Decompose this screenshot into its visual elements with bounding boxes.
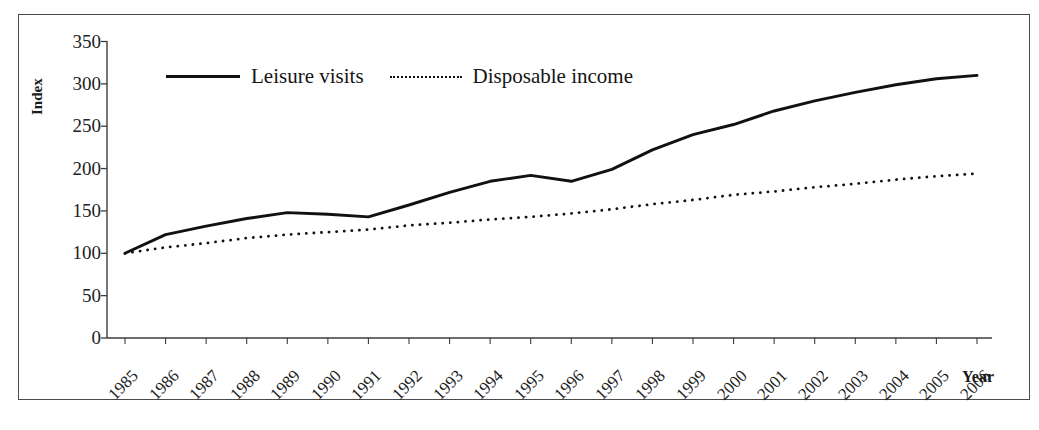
x-tick-label: 1988 [227, 367, 263, 403]
x-tick-label: 1985 [105, 367, 141, 403]
x-tick-label: 2001 [754, 367, 790, 403]
legend-label: Disposable income [473, 66, 633, 87]
x-tick-label: 1989 [267, 367, 303, 403]
x-tick-label: 2005 [916, 367, 952, 403]
x-tick-label: 1987 [186, 367, 222, 403]
legend-label: Leisure visits [251, 66, 364, 87]
x-tick-label: 1986 [146, 367, 182, 403]
legend-item-disposable-income: Disposable income [390, 66, 633, 87]
legend-line-dotted-icon [390, 76, 462, 78]
x-tick-label: 1999 [673, 367, 709, 403]
x-tick-label: 1995 [511, 367, 547, 403]
x-tick-label: 1990 [308, 367, 344, 403]
chart-legend: Leisure visits Disposable income [166, 66, 633, 87]
x-tick-label: 1993 [430, 367, 466, 403]
legend-item-leisure-visits: Leisure visits [166, 66, 364, 87]
x-tick-label: 2000 [714, 367, 750, 403]
x-tick-label: 1998 [632, 367, 668, 403]
x-axis-title: Year [962, 368, 994, 386]
x-tick-label: 2003 [835, 367, 871, 403]
x-tick-label: 1994 [470, 367, 506, 403]
x-tick-label: 1997 [592, 367, 628, 403]
x-tick-label: 1992 [389, 367, 425, 403]
x-tick-label: 2004 [876, 367, 912, 403]
x-tick-label: 1996 [551, 367, 587, 403]
x-tick-label: 2002 [795, 367, 831, 403]
legend-line-solid-icon [166, 75, 240, 78]
x-tick-label: 1991 [348, 367, 384, 403]
